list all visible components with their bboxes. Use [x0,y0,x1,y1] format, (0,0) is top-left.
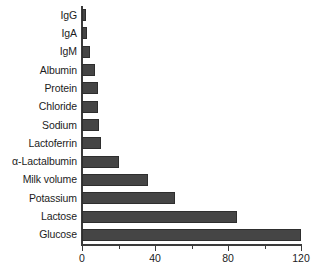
y-axis-label: IgM [60,46,77,57]
bar [82,119,99,131]
x-axis-tick [228,245,229,251]
y-axis-label: Protein [44,83,77,94]
y-axis-label: Albumin [40,65,77,76]
y-axis-label-row: IgG [0,6,77,24]
bar-row [82,134,301,152]
y-axis-label: Sodium [42,120,77,131]
y-axis-label-row: Protein [0,79,77,97]
y-axis-label-row: Milk volume [0,171,77,189]
x-axis-minor-tick [119,245,120,249]
bar [82,174,148,186]
bar [82,101,98,113]
x-axis-tick [301,245,302,251]
y-axis-label: Potassium [29,193,77,204]
x-axis-minor-tick [192,245,193,249]
x-axis-ticks [82,245,301,251]
x-axis-tick-label: 0 [79,252,85,265]
y-axis-label-row: Albumin [0,61,77,79]
bar [82,27,87,39]
y-axis-label-row: Lactose [0,207,77,225]
bar-row [82,6,301,24]
bar-row [82,79,301,97]
bar-row [82,98,301,116]
x-axis-tick [82,245,83,251]
y-axis-label-row: Glucose [0,226,77,244]
bar-row [82,61,301,79]
bar [82,9,86,21]
x-axis-tick-label: 40 [149,252,161,265]
y-axis-label-row: IgM [0,43,77,61]
bar [82,211,237,223]
y-axis-category-labels: IgG IgA IgM Albumin Protein Chloride Sod… [0,6,77,244]
bar-row [82,171,301,189]
bar [82,229,301,241]
y-axis-label-row: Chloride [0,98,77,116]
bar-row [82,226,301,244]
plot-area [82,6,301,244]
y-axis-label-row: Potassium [0,189,77,207]
y-axis-label-row: Lactoferrin [0,134,77,152]
y-axis-label-row: IgA [0,24,77,42]
x-axis-minor-tick [265,245,266,249]
bar [82,156,119,168]
bar [82,64,95,76]
x-axis-tick-labels: 04080120 [82,252,301,268]
y-axis-label-row: α-Lactalbumin [0,153,77,171]
bar [82,137,101,149]
y-axis-label-row: Sodium [0,116,77,134]
bar-row [82,116,301,134]
bar-row [82,189,301,207]
y-axis-label: α-Lactalbumin [12,156,77,167]
y-axis-label: IgG [60,10,77,21]
bar-row [82,207,301,225]
y-axis-label: Chloride [39,101,77,112]
y-axis-label: Lactoferrin [28,138,77,149]
y-axis-label: Milk volume [23,174,77,185]
bar-row [82,153,301,171]
x-axis-tick [155,245,156,251]
bar-rows [82,6,301,244]
y-axis-label: IgA [62,28,77,39]
bar-row [82,24,301,42]
bar [82,46,90,58]
bar [82,82,98,94]
x-axis-tick-label: 80 [222,252,234,265]
y-axis-label: Lactose [41,211,77,222]
x-axis-tick-label: 120 [292,252,310,265]
bar-row [82,43,301,61]
bar-chart: IgG IgA IgM Albumin Protein Chloride Sod… [0,0,320,275]
y-axis-label: Glucose [39,229,77,240]
bar [82,192,175,204]
